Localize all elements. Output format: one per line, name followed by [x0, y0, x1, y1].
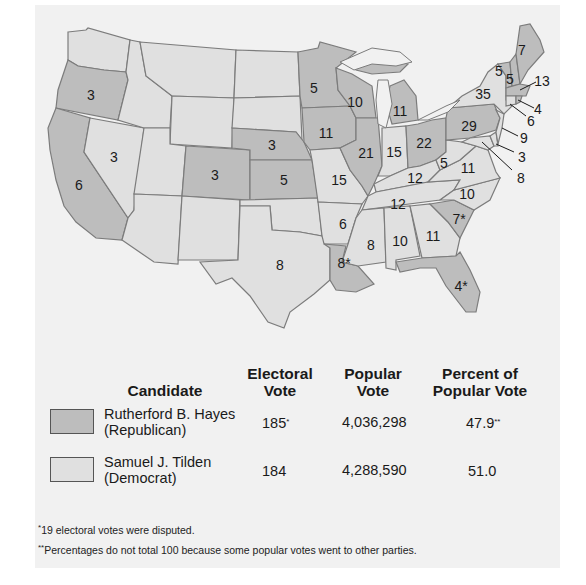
- footnote-1: *19 electoral votes were disputed.: [38, 523, 195, 536]
- percent-hayes: 47.9**: [466, 414, 500, 431]
- republican-swatch: [50, 409, 94, 434]
- label-alabama: 10: [392, 233, 408, 249]
- footnote-2: **Percentages do not total 100 because s…: [38, 543, 417, 556]
- label-new-york: 35: [475, 86, 491, 102]
- percent-value: 51.0: [468, 463, 496, 479]
- header-percent-popular-vote: Percent of Popular Vote: [420, 365, 540, 399]
- header-electoral-line1: Electoral: [240, 365, 320, 382]
- label-connecticut: 6: [527, 113, 535, 129]
- popular-vote-hayes: 4,036,298: [342, 414, 407, 430]
- label-virginia: 11: [461, 160, 476, 176]
- label-missouri: 15: [331, 172, 347, 188]
- label-north-carolina: 10: [459, 186, 475, 202]
- label-pennsylvania: 29: [461, 118, 477, 134]
- label-delaware: 3: [518, 149, 526, 165]
- footnote-text: Percentages do not total 100 because som…: [44, 544, 416, 556]
- label-arkansas: 6: [339, 216, 347, 232]
- candidate-hayes: Rutherford B. Hayes (Republican): [104, 406, 235, 438]
- header-popular-line1: Popular: [333, 365, 413, 382]
- electoral-vote-tilden: 184: [262, 462, 286, 479]
- state-dakota-north: [234, 50, 300, 98]
- label-mississippi: 8: [367, 237, 375, 253]
- label-kansas: 5: [280, 172, 288, 188]
- lake-michigan: [376, 80, 392, 128]
- electoral-vote-hayes: 185*: [262, 414, 289, 431]
- electoral-value: 185: [262, 415, 286, 431]
- label-tennessee: 12: [390, 196, 406, 212]
- label-new-jersey: 9: [520, 130, 528, 146]
- label-west-virginia: 5: [440, 155, 448, 171]
- label-iowa: 11: [319, 125, 334, 141]
- label-new-hampshire: 5: [506, 71, 514, 87]
- label-south-carolina: 7*: [452, 211, 466, 227]
- label-nebraska: 3: [268, 137, 276, 153]
- label-colorado: 3: [211, 167, 219, 183]
- label-louisiana: 8*: [337, 255, 351, 271]
- label-oregon: 3: [87, 87, 95, 103]
- electoral-value: 184: [262, 463, 286, 479]
- candidate-party: (Democrat): [104, 470, 211, 486]
- label-florida: 4*: [454, 278, 468, 294]
- candidate-tilden: Samuel J. Tilden (Democrat): [104, 454, 211, 486]
- header-candidate: Candidate: [100, 382, 230, 399]
- header-percent-line1: Percent of: [420, 365, 540, 382]
- label-vermont: 5: [495, 63, 503, 79]
- header-percent-line2: Popular Vote: [420, 382, 540, 399]
- label-ohio: 22: [416, 135, 432, 151]
- popular-vote-tilden: 4,288,590: [342, 462, 407, 478]
- state-wyoming: [170, 96, 234, 148]
- label-illinois: 21: [358, 145, 374, 161]
- candidate-name: Samuel J. Tilden: [104, 454, 211, 470]
- label-california: 6: [75, 177, 83, 193]
- democrat-swatch: [50, 457, 94, 482]
- header-popular-vote: Popular Vote: [333, 365, 413, 399]
- header-electoral-vote: Electoral Vote: [240, 365, 320, 399]
- header-popular-line2: Vote: [333, 382, 413, 399]
- candidate-name: Rutherford B. Hayes: [104, 406, 235, 422]
- header-electoral-line2: Vote: [240, 382, 320, 399]
- label-nevada: 3: [110, 149, 118, 165]
- label-kentucky: 12: [407, 170, 423, 186]
- footnote-mark: *: [286, 417, 289, 426]
- label-minnesota: 5: [310, 80, 318, 96]
- state-new-mexico: [178, 196, 240, 260]
- label-rhode-island: 4: [534, 101, 542, 117]
- label-indiana: 15: [386, 144, 402, 160]
- label-texas: 8: [276, 257, 284, 273]
- label-michigan: 11: [393, 103, 408, 119]
- percent-value: 47.9: [466, 415, 494, 431]
- label-georgia: 11: [426, 228, 441, 244]
- label-maine: 7: [518, 42, 526, 58]
- candidate-party: (Republican): [104, 422, 235, 438]
- footnote-text: 19 electoral votes were disputed.: [41, 524, 195, 536]
- label-wisconsin: 10: [347, 94, 363, 110]
- electoral-map: 3 6 3 3 3 5 8 5 11 15 6 8* 10 21 11 15 2…: [0, 0, 586, 345]
- label-maryland: 8: [517, 170, 525, 186]
- percent-tilden: 51.0: [468, 462, 496, 479]
- footnote-mark: **: [494, 417, 500, 426]
- label-massachusetts: 13: [534, 73, 550, 89]
